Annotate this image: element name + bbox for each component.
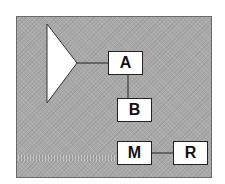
node-a-label: A: [120, 54, 132, 72]
node-r-label: R: [185, 144, 197, 162]
node-b: B: [117, 98, 152, 122]
triangle-shape: [47, 24, 77, 103]
node-m: M: [117, 141, 152, 165]
node-m-label: M: [128, 144, 141, 162]
node-a: A: [108, 51, 143, 75]
node-r: R: [173, 141, 208, 165]
node-b-label: B: [129, 101, 141, 119]
